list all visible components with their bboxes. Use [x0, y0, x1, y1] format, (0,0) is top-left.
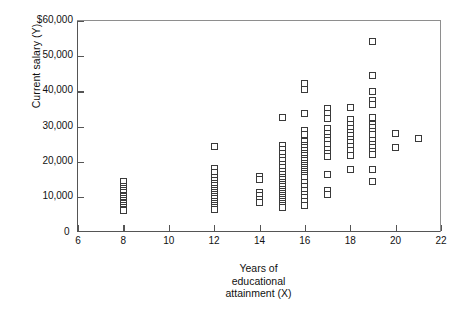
x-axis-tick-label: 22 — [427, 235, 455, 246]
x-axis-title-line-2: educational — [77, 275, 440, 288]
y-axis-tick: $60,000 — [78, 21, 84, 22]
data-point — [369, 166, 376, 173]
data-point — [301, 110, 308, 117]
data-point — [369, 151, 376, 158]
y-axis-tick-label: 20,000 — [42, 155, 73, 166]
data-point — [120, 207, 127, 214]
plot-frame-top-border — [77, 20, 441, 21]
data-point — [369, 114, 376, 121]
data-point — [369, 72, 376, 79]
x-axis-title-line-3: attainment (X) — [77, 287, 440, 300]
data-point — [415, 135, 422, 142]
x-axis-tick-label: 6 — [64, 235, 92, 246]
data-point — [301, 202, 308, 209]
x-axis-tick-label: 18 — [336, 235, 364, 246]
data-point — [369, 38, 376, 45]
x-axis-tick-label: 16 — [291, 235, 319, 246]
x-axis-tick-label: 14 — [246, 235, 274, 246]
y-axis-tick-label: 30,000 — [42, 120, 73, 131]
x-axis-tick: 16 — [305, 225, 306, 231]
y-axis-tick: 40,000 — [78, 91, 84, 92]
y-axis-tick-label: 10,000 — [42, 190, 73, 201]
y-axis-tick: 20,000 — [78, 162, 84, 163]
y-axis-tick-label: 50,000 — [42, 49, 73, 60]
x-axis-tick-label: 10 — [155, 235, 183, 246]
data-point — [256, 176, 263, 183]
x-axis-tick: 8 — [123, 225, 124, 231]
y-axis-tick: 10,000 — [78, 197, 84, 198]
plot-area: 0 10,00020,00030,00040,00050,000$60,0006… — [77, 21, 440, 232]
x-axis-tick-label: 20 — [382, 235, 410, 246]
data-point — [301, 86, 308, 93]
x-axis-tick: 22 — [441, 225, 442, 231]
x-axis-title-line-1: Years of — [77, 262, 440, 275]
data-point — [369, 178, 376, 185]
data-point — [211, 206, 218, 213]
data-point — [392, 144, 399, 151]
y-axis-tick-label: $60,000 — [37, 14, 73, 25]
x-axis-tick: 18 — [350, 225, 351, 231]
y-axis-tick: 30,000 — [78, 127, 84, 128]
x-axis-tick: 6 — [78, 225, 79, 231]
data-point — [369, 101, 376, 108]
data-point — [347, 104, 354, 111]
data-point — [324, 171, 331, 178]
data-point — [347, 166, 354, 173]
data-point — [347, 152, 354, 159]
data-point — [324, 191, 331, 198]
y-axis-tick: 50,000 — [78, 56, 84, 57]
x-axis-tick: 14 — [260, 225, 261, 231]
data-point — [279, 114, 286, 121]
data-point — [369, 88, 376, 95]
data-point — [301, 131, 308, 138]
scatter-plot-figure: Current salary (Y) 0 10,00020,00030,0004… — [0, 0, 464, 309]
x-axis-title: Years of educational attainment (X) — [77, 262, 440, 300]
data-point — [279, 204, 286, 211]
data-point — [211, 143, 218, 150]
data-point — [256, 199, 263, 206]
data-point — [324, 153, 331, 160]
plot-frame-right-border — [440, 20, 441, 232]
data-point — [324, 115, 331, 122]
y-axis-tick-label: 40,000 — [42, 84, 73, 95]
x-axis-tick-label: 12 — [200, 235, 228, 246]
x-axis-tick: 20 — [396, 225, 397, 231]
x-axis-tick: 10 — [169, 225, 170, 231]
x-axis-tick: 12 — [214, 225, 215, 231]
x-axis-tick-label: 8 — [109, 235, 137, 246]
data-point — [392, 130, 399, 137]
